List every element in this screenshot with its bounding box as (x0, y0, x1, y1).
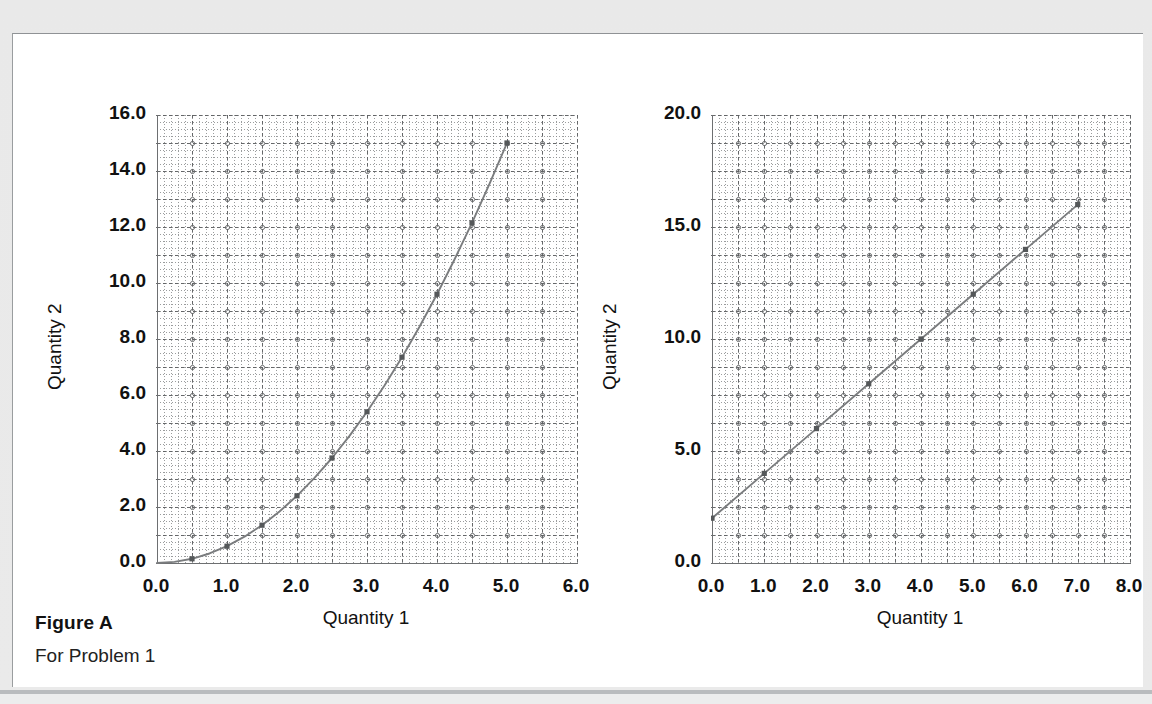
figure-panel: Quantity 2 Quantity 1 0.02.04.06.08.010.… (12, 33, 1143, 687)
right-x-tick-label: 1.0 (733, 575, 793, 597)
right-y-tick-label: 0.0 (629, 550, 701, 572)
left-y-tick-label: 6.0 (74, 382, 146, 404)
right-x-tick-label: 8.0 (1099, 575, 1152, 597)
left-x-tick-label: 2.0 (266, 575, 326, 597)
figure-caption-subtitle: For Problem 1 (35, 645, 635, 667)
left-x-tick-label: 1.0 (196, 575, 256, 597)
right-x-tick-label: 5.0 (942, 575, 1002, 597)
chart-right: Quantity 2 Quantity 1 0.05.010.015.020.0… (591, 34, 1136, 594)
left-y-axis-label: Quantity 2 (44, 303, 66, 390)
left-y-tick-label: 2.0 (74, 494, 146, 516)
right-plot-area (711, 114, 1131, 564)
right-x-tick-label: 0.0 (681, 575, 741, 597)
right-x-tick-label: 2.0 (786, 575, 846, 597)
left-y-tick-label: 4.0 (74, 438, 146, 460)
right-x-tick-label: 6.0 (995, 575, 1055, 597)
left-y-tick-label: 8.0 (74, 326, 146, 348)
right-x-tick-label: 4.0 (890, 575, 950, 597)
left-x-tick-label: 0.0 (126, 575, 186, 597)
left-x-tick-label: 5.0 (476, 575, 536, 597)
left-y-tick-label: 10.0 (74, 270, 146, 292)
right-y-tick-label: 5.0 (629, 438, 701, 460)
right-x-axis-label: Quantity 1 (711, 607, 1129, 629)
right-y-axis-label: Quantity 2 (599, 303, 621, 390)
right-y-tick-label: 10.0 (629, 326, 701, 348)
left-y-tick-label: 0.0 (74, 550, 146, 572)
left-y-tick-label: 12.0 (74, 214, 146, 236)
chart-left: Quantity 2 Quantity 1 0.02.04.06.08.010.… (31, 34, 576, 594)
panel-bottom-shadow (0, 694, 1152, 704)
left-x-tick-label: 3.0 (336, 575, 396, 597)
charts-row: Quantity 2 Quantity 1 0.02.04.06.08.010.… (13, 34, 1144, 594)
figure-caption-title: Figure A (35, 612, 635, 634)
left-y-tick-label: 14.0 (74, 158, 146, 180)
left-x-tick-label: 4.0 (406, 575, 466, 597)
right-x-tick-label: 7.0 (1047, 575, 1107, 597)
figure-caption: Figure A For Problem 1 (35, 612, 635, 667)
right-x-tick-label: 3.0 (838, 575, 898, 597)
left-plot-area (156, 114, 578, 564)
right-y-tick-label: 20.0 (629, 102, 701, 124)
left-y-tick-label: 16.0 (74, 102, 146, 124)
right-y-tick-label: 15.0 (629, 214, 701, 236)
